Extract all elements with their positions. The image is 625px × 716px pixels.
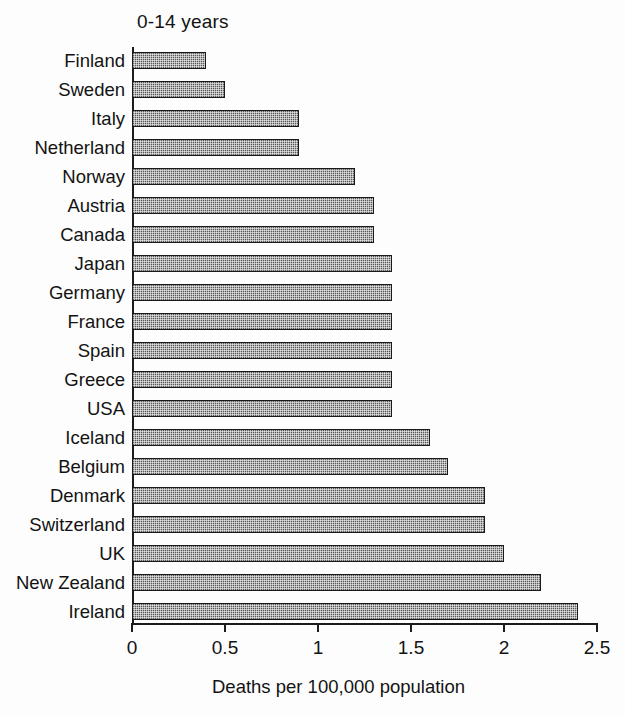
bar-category-label: Sweden [58,80,125,100]
bar-category-label: France [67,312,125,332]
bar [132,52,206,69]
x-axis-title: Deaths per 100,000 population [0,676,625,698]
x-axis-tick [131,623,133,632]
bar-category-label: USA [87,399,125,419]
x-axis-tick [410,623,412,632]
bar-row: USA [132,400,597,417]
bar-category-label: Ireland [68,602,125,622]
bar [132,516,485,533]
bar-row: Denmark [132,487,597,504]
plot-area: FinlandSwedenItalyNetherlandNorwayAustri… [132,48,597,624]
bar [132,458,448,475]
x-axis-tick-label: 0 [127,637,138,659]
bar-category-label: UK [99,544,125,564]
bar [132,313,392,330]
bar [132,255,392,272]
bar-row: Switzerland [132,516,597,533]
bar-category-label: Belgium [58,457,125,477]
bar [132,110,299,127]
bar-category-label: Greece [64,370,125,390]
bar-row: Iceland [132,429,597,446]
bar [132,429,430,446]
bar [132,139,299,156]
bar [132,371,392,388]
bar-row: Norway [132,168,597,185]
bar-row: UK [132,545,597,562]
bar-chart: 0-14 years FinlandSwedenItalyNetherlandN… [0,0,625,716]
bar-row: Netherland [132,139,597,156]
x-axis-line [132,623,597,625]
x-axis-tick [317,623,319,632]
x-axis-tick [503,623,505,632]
bar-category-label: New Zealand [16,573,125,593]
bar-category-label: Norway [62,167,125,187]
bar-category-label: Spain [78,341,125,361]
x-axis-tick-label: 1.5 [398,637,424,659]
bar-category-label: Japan [75,254,125,274]
bar-category-label: Austria [67,196,125,216]
bar-category-label: Denmark [50,486,125,506]
x-axis-tick [596,623,598,632]
bar-row: Italy [132,110,597,127]
x-axis-tick-label: 0.5 [212,637,238,659]
bar-row: Belgium [132,458,597,475]
bar [132,342,392,359]
bar [132,226,374,243]
chart-title: 0-14 years [137,11,229,33]
bar-row: Austria [132,197,597,214]
bar [132,400,392,417]
bar [132,603,578,620]
bar-row: Spain [132,342,597,359]
bar [132,168,355,185]
bar [132,81,225,98]
bar-row: Germany [132,284,597,301]
bar-row: New Zealand [132,574,597,591]
x-axis-tick [224,623,226,632]
bar [132,574,541,591]
bar-row: Japan [132,255,597,272]
bar-row: France [132,313,597,330]
x-axis-tick-label: 1 [313,637,324,659]
x-axis-tick-label: 2.5 [584,637,610,659]
x-axis-tick-label: 2 [499,637,510,659]
bar-category-label: Switzerland [29,515,125,535]
bar-row: Ireland [132,603,597,620]
bar [132,545,504,562]
bar-row: Sweden [132,81,597,98]
bar [132,487,485,504]
bar [132,197,374,214]
bar-category-label: Iceland [65,428,125,448]
bar-category-label: Canada [60,225,125,245]
bar-category-label: Italy [91,109,125,129]
bar-row: Finland [132,52,597,69]
bar-category-label: Finland [64,51,125,71]
bar [132,284,392,301]
bar-row: Greece [132,371,597,388]
bar-category-label: Germany [49,283,125,303]
bar-row: Canada [132,226,597,243]
bar-category-label: Netherland [34,138,125,158]
